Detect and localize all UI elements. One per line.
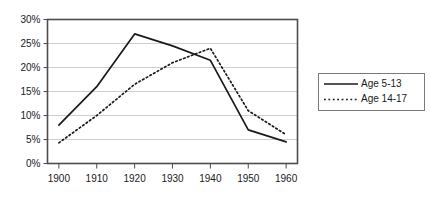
- chart-container: 0%5%10%15%20%25%30% 19001910192019301940…: [0, 0, 431, 200]
- chart-legend: Age 5-13Age 14-17: [319, 74, 425, 111]
- line-chart: 0%5%10%15%20%25%30% 19001910192019301940…: [0, 0, 431, 200]
- x-tick-label: 1940: [199, 173, 222, 184]
- x-tick-label: 1920: [123, 173, 146, 184]
- y-tick-label: 10%: [20, 110, 40, 121]
- y-tick-label: 5%: [26, 134, 41, 145]
- legend-label-1: Age 5-13: [361, 78, 402, 89]
- y-tick-label: 20%: [20, 62, 40, 73]
- y-tick-label: 30%: [20, 14, 40, 25]
- legend-label-2: Age 14-17: [361, 93, 408, 104]
- y-tick-label: 15%: [20, 86, 40, 97]
- y-tick-label: 0%: [26, 158, 41, 169]
- x-tick-label: 1930: [161, 173, 184, 184]
- x-tick-label: 1960: [275, 173, 298, 184]
- x-tick-label: 1950: [237, 173, 260, 184]
- x-tick-label: 1900: [48, 173, 71, 184]
- x-tick-label: 1910: [86, 173, 109, 184]
- y-tick-label: 25%: [20, 38, 40, 49]
